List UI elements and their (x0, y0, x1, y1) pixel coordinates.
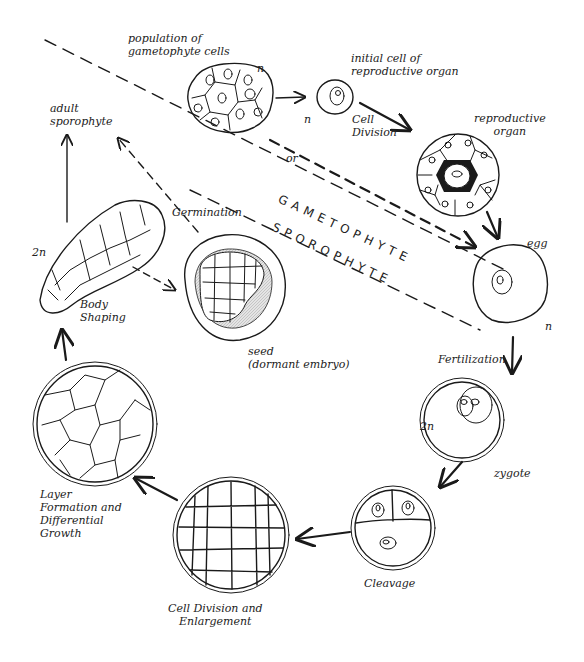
egg-cell (473, 245, 547, 322)
egg-ploidy: n (545, 320, 552, 333)
fertilization-label: Fertilization (438, 353, 506, 366)
cell-division-embryo (173, 477, 289, 593)
seed (185, 235, 286, 341)
initial-cell-label: initial cell of reproductive organ (351, 52, 459, 78)
gametophyte-population-label: population of gametophyte cells (128, 32, 230, 58)
gametophyte-ploidy: n (257, 62, 264, 75)
zygote-label: zygote (494, 467, 531, 480)
body-shaping-ploidy: 2n (32, 246, 46, 259)
body-shaping-label: Body Shaping (80, 298, 126, 324)
reproductive-organ-label: reproductive organ (474, 112, 546, 138)
layer-formation-embryo (33, 362, 157, 486)
generation-divider (45, 40, 505, 330)
germination-label: Germination (172, 206, 242, 219)
cleavage-label: Cleavage (364, 577, 415, 590)
reproductive-organ (417, 134, 499, 216)
body-shaping-embryo (40, 201, 165, 313)
seed-label: seed (dormant embryo) (248, 345, 350, 371)
zygote-ploidy: 2n (420, 420, 434, 433)
initial-cell-ploidy: n (304, 113, 311, 126)
adult-sporophyte-label: adult sporophyte (50, 102, 112, 128)
cell-division-label: Cell Division and Enlargement (168, 602, 263, 628)
egg-label: egg (527, 237, 548, 250)
life-cycle-diagram: GAMETOPHYTE SPOROPHYTE population of gam… (0, 0, 584, 662)
cell-division-transition-label: Cell Division (352, 113, 397, 139)
layer-formation-label: Layer Formation and Differential Growth (40, 488, 122, 540)
or-label: or (286, 152, 298, 165)
cleavage-cell (351, 486, 435, 570)
initial-cell (317, 80, 353, 114)
diagram-drawing (0, 0, 584, 662)
